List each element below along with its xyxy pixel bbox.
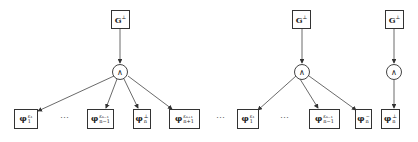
- edge-and-to-phinm1-1: [106, 79, 117, 108]
- perp-sup: ⊥: [122, 14, 127, 20]
- node-phi-nm1-2: φεₙ₋₁n−1: [309, 109, 340, 129]
- edge-and-to-phinp1-1: [128, 76, 172, 109]
- and-node-3: ∧: [386, 64, 402, 80]
- edge-and-to-phin-1: [124, 79, 138, 108]
- edge-and-to-phi1-2: [258, 76, 296, 110]
- edge-and-to-phi1-1: [38, 76, 114, 111]
- node-phi-1-1: φε₁1: [14, 109, 38, 129]
- root-node-g-perp-1: G⊥: [111, 10, 130, 29]
- and-node-1: ∧: [112, 64, 128, 80]
- ellipsis-1: ⋯: [60, 113, 70, 123]
- wedge-label: ∧: [117, 68, 123, 77]
- g-label: G: [115, 15, 122, 25]
- node-phi-n-tilde-2: φ~n: [355, 109, 372, 129]
- node-phi-n-perp-3: φ⊥n: [381, 109, 400, 129]
- node-phi-nm1-1: φεₙ₋₁n−1: [87, 109, 114, 129]
- node-phi-np1-1: φεₙ₊₁n+1: [169, 109, 200, 129]
- node-phi-1-2: φε₁1: [237, 109, 259, 129]
- ellipsis-2a: ⋯: [216, 113, 226, 123]
- ellipsis-2b: ⋯: [280, 113, 290, 123]
- and-node-2: ∧: [294, 64, 310, 80]
- node-phi-n-perp-1: φ⊥n: [133, 109, 151, 129]
- root-node-g-perp-2: G⊥: [292, 10, 311, 29]
- edge-and-to-phinm1-2: [300, 79, 318, 108]
- root-node-g-perp-3: G⊥: [385, 10, 404, 29]
